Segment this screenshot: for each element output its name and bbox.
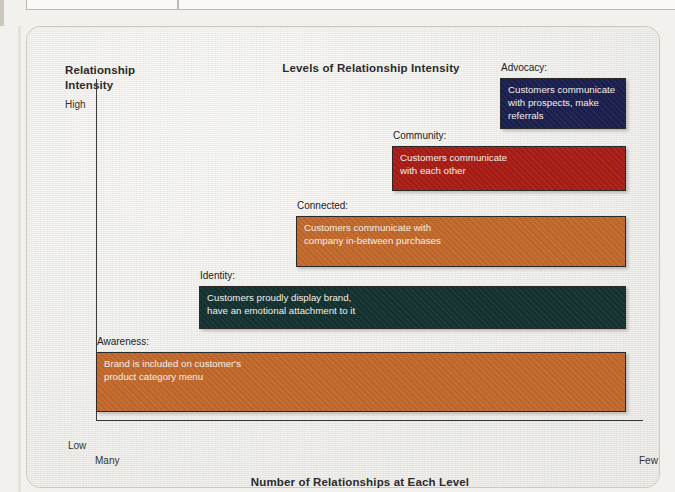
bar-label-identity: Identity: (200, 270, 235, 281)
x-tick-many: Many (95, 455, 119, 466)
bar-label-connected: Connected: (297, 200, 348, 211)
bar-text: Customers communicate with prospects, ma… (508, 84, 619, 123)
bar-connected: Customers communicate with company in-be… (296, 216, 626, 267)
x-axis-title: Number of Relationships at Each Level (27, 476, 661, 488)
bar-advocacy: Customers communicate with prospects, ma… (500, 78, 626, 129)
clipped-text-fragment (34, 0, 154, 6)
scan-page-edge (18, 26, 21, 492)
y-tick-high: High (65, 99, 86, 110)
bar-text: Customers communicate with company in-be… (304, 222, 619, 248)
bar-label-community: Community: (393, 130, 446, 141)
bar-community: Customers communicate with each other (392, 146, 626, 191)
bar-label-advocacy: Advocacy: (501, 62, 547, 73)
x-axis-line (96, 420, 643, 421)
bar-text: Customers proudly display brand, have an… (207, 292, 619, 318)
chart-title: Levels of Relationship Intensity (27, 62, 661, 74)
scan-top-box-right (178, 0, 675, 10)
bar-awareness: Brand is included on customer's product … (96, 352, 626, 412)
y-axis-title-line2: Intensity (65, 78, 185, 93)
bar-text: Brand is included on customer's product … (104, 358, 619, 384)
bar-identity: Customers proudly display brand, have an… (199, 286, 626, 329)
scan-left-rule (0, 0, 4, 26)
figure-card: Relationship Intensity Levels of Relatio… (26, 26, 660, 488)
bar-label-awareness: Awareness: (97, 336, 149, 347)
x-tick-few: Few (639, 455, 658, 466)
y-tick-low: Low (68, 440, 86, 451)
bar-text: Customers communicate with each other (400, 152, 619, 178)
